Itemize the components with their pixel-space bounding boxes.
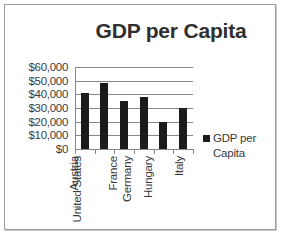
bar-slot — [75, 67, 95, 149]
bar[interactable] — [120, 101, 128, 149]
bar-series — [75, 67, 193, 149]
x-axis-tick — [114, 150, 115, 154]
y-axis-tick-label: $30,000 — [29, 102, 68, 114]
x-axis-category-label: United States — [71, 156, 83, 222]
chart-title: GDP per Capita — [65, 19, 277, 43]
y-axis-tick-label: $10,000 — [29, 129, 68, 141]
y-axis-tick-label: $60,000 — [29, 61, 68, 73]
x-axis-category-label: Italy — [173, 156, 185, 176]
legend-item-gdp-per-capita: GDP perCapita — [203, 131, 277, 161]
x-axis-category-label: Germany — [121, 156, 133, 202]
y-axis-tick-label: $50,000 — [29, 75, 68, 87]
x-axis-tick — [173, 150, 174, 154]
bar[interactable] — [179, 108, 187, 149]
bar[interactable] — [140, 97, 148, 149]
y-axis-tick-label: $0 — [56, 143, 68, 155]
x-axis-ticks — [75, 150, 194, 154]
x-axis-tick — [134, 150, 135, 154]
y-axis-tick-label: $40,000 — [29, 88, 68, 100]
bar-slot — [95, 67, 115, 149]
x-axis-tick — [154, 150, 155, 154]
legend-label-line-1: GDP per — [213, 132, 256, 144]
bar-slot — [114, 67, 134, 149]
x-axis-category-label: Hungary — [142, 156, 154, 198]
legend-color-marker-icon — [203, 135, 210, 142]
bar[interactable] — [159, 122, 167, 149]
bar-slot — [154, 67, 174, 149]
x-axis-tick — [193, 150, 194, 154]
x-axis-tick — [95, 150, 96, 154]
chart-frame: GDP per Capita $60,000$50,000$40,000$30,… — [4, 4, 276, 230]
legend-item-label: GDP perCapita — [213, 131, 256, 161]
bar[interactable] — [81, 93, 89, 149]
bar-slot — [173, 67, 193, 149]
bar-slot — [134, 67, 154, 149]
x-axis-category-label: France — [107, 156, 119, 191]
x-axis-category-slot: Italy — [173, 156, 193, 236]
x-axis-tick — [75, 150, 76, 154]
x-axis-category-slot: Hungary — [154, 156, 174, 236]
chart-legend: GDP perCapita — [203, 131, 277, 161]
y-axis-tick-labels: $60,000$50,000$40,000$30,000$20,000$10,0… — [9, 67, 71, 149]
legend-label-line-2: Capita — [213, 147, 245, 159]
y-axis-tick-label: $20,000 — [29, 116, 68, 128]
x-axis-category-labels: AustriaUnited StatesFranceGermanyHungary… — [75, 156, 193, 236]
bar[interactable] — [100, 83, 108, 149]
